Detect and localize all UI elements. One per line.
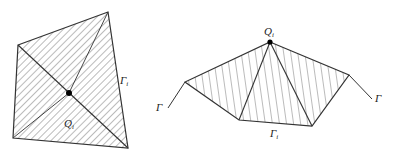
right-tail-right	[349, 75, 372, 99]
right-label-gamma-left: Γ	[155, 101, 163, 113]
right-label-q: Qi	[264, 25, 274, 39]
right-pentagon	[185, 42, 349, 126]
right-point-q-dot	[267, 39, 272, 44]
right-label-gamma-right: Γ	[374, 92, 382, 104]
left-label-gamma: Γi	[119, 74, 128, 88]
diagram-canvas: Qi Γi Qi Γi Γ Γ	[0, 0, 397, 158]
left-figure: Qi Γi	[13, 12, 128, 148]
right-tail-left	[168, 82, 185, 108]
right-label-gamma-i: Γi	[269, 127, 278, 141]
right-figure: Qi Γi Γ Γ	[155, 25, 382, 141]
left-point-q-dot	[66, 90, 72, 96]
